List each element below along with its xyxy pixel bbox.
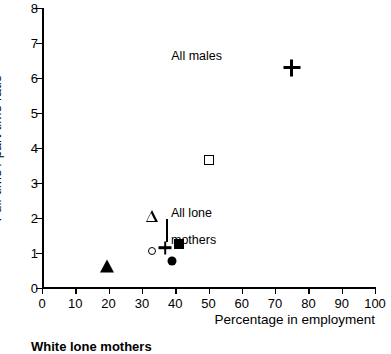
- annotation-leader-line: [166, 219, 168, 242]
- annotation-all-males: All males: [171, 50, 222, 64]
- annotation-all-lone-mothers-line2: mothers: [171, 233, 216, 247]
- legend-entry-white-lone-mothers: White lone mothers: [31, 339, 152, 354]
- annotation-all-lone-mothers: All lone mothers: [171, 193, 216, 247]
- x-axis-tick: [109, 288, 110, 294]
- y-axis-tick-label: 5: [31, 107, 38, 120]
- x-axis-tick: [142, 288, 143, 294]
- data-point-plus: [283, 59, 300, 76]
- x-axis-tick-label: 90: [334, 297, 348, 310]
- data-point-triangle-open: [146, 210, 158, 222]
- x-axis-tick: [75, 288, 76, 294]
- y-axis-label: Full-time / part-time ratio: [0, 75, 4, 221]
- x-axis-tick-label: 0: [38, 297, 45, 310]
- x-axis-tick: [175, 288, 176, 294]
- x-axis-label: Percentage in employment: [214, 312, 375, 327]
- x-axis-tick-label: 40: [168, 297, 182, 310]
- y-axis-tick-label: 8: [31, 2, 38, 15]
- data-point-circle-open: [148, 247, 156, 255]
- data-point-circle-filled: [167, 256, 176, 265]
- x-axis-tick-label: 10: [68, 297, 82, 310]
- x-axis-tick-label: 50: [201, 297, 215, 310]
- data-point-plus: [159, 241, 172, 254]
- y-axis-tick-label: 3: [31, 177, 38, 190]
- x-axis-tick-label: 30: [135, 297, 149, 310]
- x-axis-tick-label: 60: [235, 297, 249, 310]
- x-axis-tick: [375, 288, 376, 294]
- y-axis-tick-label: 7: [31, 37, 38, 50]
- x-axis-tick: [42, 288, 43, 294]
- annotation-all-lone-mothers-line1: All lone: [171, 206, 212, 220]
- y-axis-tick-label: 2: [31, 212, 38, 225]
- x-axis-tick: [342, 288, 343, 294]
- y-axis-tick-label: 1: [31, 247, 38, 260]
- x-axis-tick: [242, 288, 243, 294]
- x-axis-tick-label: 80: [301, 297, 315, 310]
- y-axis-tick-label: 0: [31, 282, 38, 295]
- y-axis-tick-label: 6: [31, 72, 38, 85]
- y-axis-tick-label: 4: [31, 142, 38, 155]
- x-axis-tick-label: 100: [364, 297, 386, 310]
- x-axis-tick: [308, 288, 309, 294]
- x-axis-tick: [209, 288, 210, 294]
- x-axis-tick: [275, 288, 276, 294]
- data-point-triangle-filled: [100, 260, 114, 273]
- x-axis-tick-label: 70: [268, 297, 282, 310]
- data-point-square-open: [204, 155, 214, 165]
- x-axis-tick-label: 20: [101, 297, 115, 310]
